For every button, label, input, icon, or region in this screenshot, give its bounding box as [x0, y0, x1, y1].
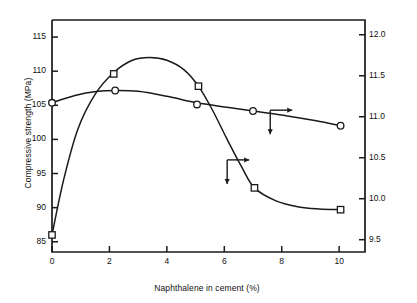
data-point-marker-square [251, 185, 257, 191]
data-point-marker-square [111, 71, 117, 77]
arrow-head-right-icon [244, 157, 249, 162]
y-axis-left-tick-label: 90 [24, 202, 46, 212]
data-point-marker-square [337, 206, 343, 212]
y-axis-right-tick-label: 10.5 [369, 152, 395, 162]
x-axis-tick-label: 4 [157, 256, 177, 266]
y-axis-left-tick-label: 110 [24, 65, 46, 75]
annotation-arrows [225, 108, 293, 184]
data-point-marker-circle [49, 100, 56, 107]
y-axis-right-tick-label: 11.0 [369, 111, 395, 121]
chart-plot-area [0, 0, 417, 303]
data-series-group [49, 58, 344, 239]
y-axis-left-tick-label: 115 [24, 31, 46, 41]
plot-frame [52, 20, 365, 252]
y-axis-right-tick-label: 11.5 [369, 70, 395, 80]
arrow-head-down-icon [225, 179, 230, 184]
y-axis-left-tick-label: 85 [24, 236, 46, 246]
compressive-axis-arrow [225, 157, 250, 184]
y-axis-right-tick-label: 12.0 [369, 29, 395, 39]
arrow-head-down-icon [268, 129, 273, 134]
x-axis-tick-label: 0 [42, 256, 62, 266]
y-axis-right-tick-label: 10.0 [369, 193, 395, 203]
data-point-marker-square [195, 83, 201, 89]
y-axis-left-tick-label: 100 [24, 133, 46, 143]
x-axis-tick-label: 6 [214, 256, 234, 266]
x-axis-title: Naphthalene in cement (%) [92, 283, 322, 293]
y-axis-left-tick-label: 95 [24, 168, 46, 178]
x-axis-tick-label: 10 [329, 256, 349, 266]
data-point-marker-square [49, 232, 55, 238]
y-axis-left-tick-label: 105 [24, 99, 46, 109]
data-point-marker-circle [194, 101, 201, 108]
y-axis-right-tick-label: 9.5 [369, 234, 395, 244]
x-axis-tick-label: 8 [272, 256, 292, 266]
arrow-head-right-icon [287, 108, 292, 113]
data-point-marker-circle [337, 122, 344, 129]
axis-frame [52, 20, 365, 252]
axis-ticks [52, 35, 365, 252]
data-point-marker-circle [112, 87, 119, 94]
tensile-axis-arrow [268, 108, 293, 135]
x-axis-tick-label: 2 [99, 256, 119, 266]
chart-figure: Compressive strength (MPa) Splitting ten… [0, 0, 417, 303]
data-point-marker-circle [250, 108, 257, 115]
